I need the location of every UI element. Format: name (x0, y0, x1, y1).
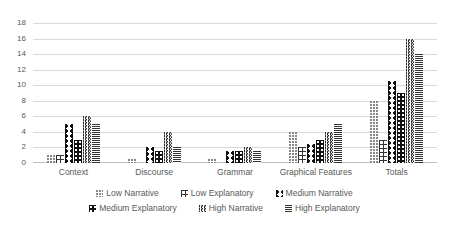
y-tick-label: 2 (22, 143, 26, 151)
bar[interactable] (397, 93, 405, 163)
category-label: Grammar (195, 166, 276, 180)
bar[interactable] (307, 144, 315, 163)
legend-label: Medium Explanatory (99, 204, 176, 213)
x-axis-labels: Context Discourse Grammar Graphical Feat… (33, 166, 437, 180)
bar[interactable] (226, 151, 234, 163)
bar-chart: 18 16 14 12 10 8 6 4 2 0 Context Discour… (0, 0, 449, 232)
bar[interactable] (235, 151, 243, 163)
bar[interactable] (379, 140, 387, 163)
bar[interactable] (325, 132, 333, 163)
bar[interactable] (298, 147, 306, 163)
legend-label: High Explanatory (295, 204, 360, 213)
bar[interactable] (415, 54, 423, 163)
y-tick-label: 0 (22, 159, 26, 167)
bar[interactable] (289, 132, 297, 163)
bar[interactable] (164, 132, 172, 163)
bar[interactable] (65, 124, 73, 163)
legend-label: Medium Narrative (286, 189, 353, 198)
bar[interactable] (253, 151, 261, 163)
legend-item-high-explanatory[interactable]: High Explanatory (285, 204, 360, 213)
bar-group (275, 23, 356, 163)
bar-group (114, 23, 195, 163)
bar[interactable] (155, 151, 163, 163)
y-tick-label: 6 (22, 112, 26, 120)
legend-item-high-narrative[interactable]: High Narrative (199, 204, 263, 213)
bar-group (356, 23, 437, 163)
legend-item-medium-narrative[interactable]: Medium Narrative (276, 189, 353, 198)
bar[interactable] (316, 140, 324, 163)
bar-group (195, 23, 276, 163)
bar[interactable] (208, 159, 216, 163)
y-tick-label: 8 (22, 97, 26, 105)
legend-label: Low Narrative (106, 189, 158, 198)
legend-swatch-icon (181, 190, 188, 197)
bar[interactable] (388, 81, 396, 163)
y-tick-label: 12 (17, 66, 26, 74)
legend-swatch-icon (276, 190, 283, 197)
bar[interactable] (92, 124, 100, 163)
legend-label: Low Explanatory (191, 189, 254, 198)
legend-swatch-icon (89, 205, 96, 212)
y-tick-label: 4 (22, 128, 26, 136)
y-tick-label: 14 (17, 50, 26, 58)
bar[interactable] (74, 140, 82, 163)
y-tick-label: 16 (17, 35, 26, 43)
bar-groups (33, 23, 437, 163)
legend-item-medium-explanatory[interactable]: Medium Explanatory (89, 204, 176, 213)
chart-legend: Low Narrative Low Explanatory Medium Nar… (0, 186, 449, 216)
bar[interactable] (83, 116, 91, 163)
category-label: Context (33, 166, 114, 180)
bar[interactable] (334, 124, 342, 163)
bar[interactable] (47, 155, 55, 163)
bar[interactable] (406, 39, 414, 163)
bar[interactable] (146, 147, 154, 163)
bar[interactable] (370, 101, 378, 163)
bar[interactable] (128, 159, 136, 163)
bar[interactable] (244, 147, 252, 163)
bar[interactable] (173, 147, 181, 163)
legend-item-low-explanatory[interactable]: Low Explanatory (181, 189, 254, 198)
legend-swatch-icon (285, 205, 292, 212)
y-tick-label: 10 (17, 81, 26, 89)
category-label: Discourse (114, 166, 195, 180)
legend-row-1: Low Narrative Low Explanatory Medium Nar… (0, 186, 449, 201)
legend-row-2: Medium Explanatory High Narrative High E… (0, 201, 449, 216)
legend-item-low-narrative[interactable]: Low Narrative (96, 189, 158, 198)
y-axis: 18 16 14 12 10 8 6 4 2 0 (0, 23, 30, 163)
legend-swatch-icon (199, 205, 206, 212)
bar-group (33, 23, 114, 163)
category-label: Totals (356, 166, 437, 180)
y-tick-label: 18 (17, 19, 26, 27)
legend-label: High Narrative (209, 204, 263, 213)
bar[interactable] (56, 155, 64, 163)
legend-swatch-icon (96, 190, 103, 197)
category-label: Graphical Features (275, 166, 356, 180)
